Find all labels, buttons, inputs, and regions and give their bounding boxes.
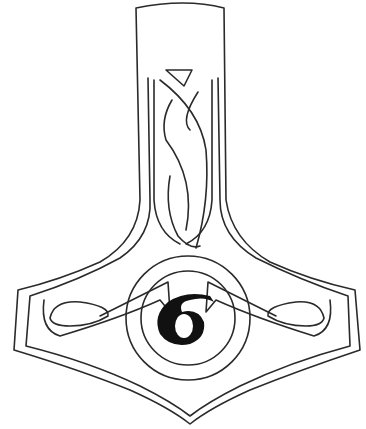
number-six-glyph: [157, 294, 214, 345]
braid-ornament: [154, 70, 212, 248]
hammer-illustration: [0, 0, 366, 429]
hammer-outline: [14, 3, 360, 424]
right-knot: [206, 282, 331, 336]
